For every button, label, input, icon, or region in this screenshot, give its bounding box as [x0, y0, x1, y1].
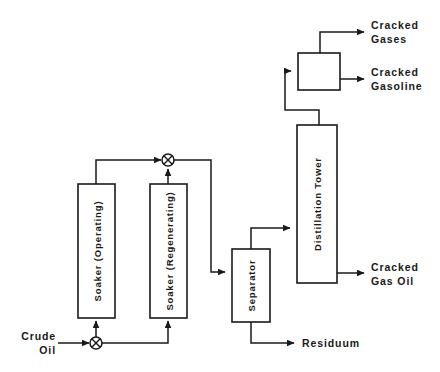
stream-label-cracked-gasoline: Cracked Gasoline: [371, 66, 423, 93]
stream-label-cracked-gases: Cracked Gases: [371, 19, 419, 46]
process-flow-diagram: Soaker (Operating) Soaker (Regenerating)…: [0, 0, 440, 372]
unit-label-separator: Separator: [246, 259, 257, 311]
flow-line-feed-valve-to-soaker-regenerating: [102, 321, 168, 343]
stream-label-residuum: Residuum: [302, 337, 360, 351]
flow-line-separator-to-distillation-tower: [251, 228, 290, 249]
flow-diagram-canvas: Soaker (Operating) Soaker (Regenerating)…: [0, 0, 440, 372]
valve-feed-valve[interactable]: [90, 337, 102, 349]
unit-box-overhead-drum[interactable]: [298, 53, 340, 90]
unit-label-soaker-regenerating: Soaker (Regenerating): [164, 191, 175, 310]
stream-label-crude-oil: Crude Oil: [4, 330, 56, 357]
valve-product-valve[interactable]: [162, 154, 174, 166]
unit-label-soaker-operating: Soaker (Operating): [92, 201, 103, 302]
unit-label-distillation-tower: Distillation Tower: [312, 157, 323, 251]
flow-line-drum-to-cracked-gases: [320, 32, 364, 53]
stream-label-cracked-gas-oil: Cracked Gas Oil: [371, 261, 419, 288]
flow-line-separator-to-residuum: [251, 322, 294, 343]
flow-line-soaker-operating-to-product-valve: [96, 160, 161, 184]
